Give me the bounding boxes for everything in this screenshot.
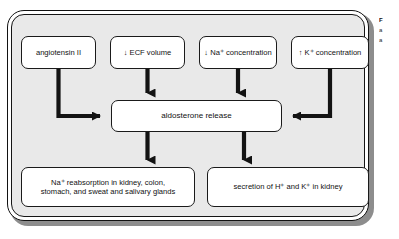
node-h-k-secretion: secretion of H⁺ and K⁺ in kidney (207, 167, 369, 207)
node-angiotensin-ii: angiotensin II (21, 36, 96, 69)
figure-root: angiotensin II ↓ ECF volume ↓ Na⁺ concen… (0, 0, 399, 239)
node-label: aldosterone release (161, 111, 231, 121)
node-ecf-volume: ↓ ECF volume (110, 36, 185, 69)
node-label: Na⁺ reabsorption in kidney, colon, stoma… (41, 178, 176, 197)
node-na-reabsorption: Na⁺ reabsorption in kidney, colon, stoma… (21, 167, 195, 207)
margin-caption-line-1: a (379, 25, 399, 35)
margin-caption-line-2: a (379, 35, 399, 45)
margin-caption-fragment: F a a (379, 15, 399, 46)
node-label: ↓ Na⁺ concentration (204, 48, 271, 57)
node-label: angiotensin II (36, 48, 81, 57)
node-label: ↓ ECF volume (124, 48, 172, 57)
margin-caption-title: F (379, 15, 399, 25)
node-na-concentration: ↓ Na⁺ concentration (199, 36, 277, 69)
node-label: ↑ K⁺ concentration (299, 48, 362, 57)
node-aldosterone-release: aldosterone release (111, 100, 282, 132)
node-k-concentration: ↑ K⁺ concentration (291, 36, 369, 69)
node-label: secretion of H⁺ and K⁺ in kidney (234, 182, 343, 191)
